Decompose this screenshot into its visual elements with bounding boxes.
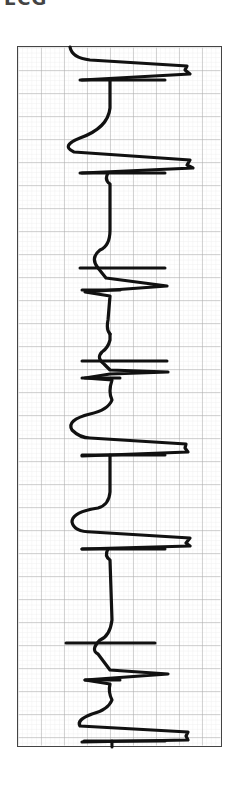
ecg-chart xyxy=(0,0,240,799)
grid xyxy=(19,48,221,746)
